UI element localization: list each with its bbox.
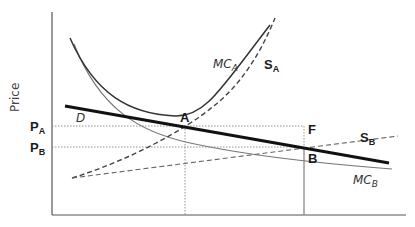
- y-axis-title: Price: [8, 83, 22, 112]
- s-a-label: SA: [264, 58, 279, 74]
- mc-b-label: MCB: [353, 174, 378, 189]
- diagram-canvas: [0, 0, 415, 227]
- point-f-label: F: [308, 123, 316, 136]
- pa-label: PA: [30, 120, 45, 136]
- demand-label: D: [76, 112, 85, 124]
- s-a-curve: [72, 18, 275, 178]
- point-a-label: A: [180, 111, 189, 124]
- mc-a-curve: [70, 25, 270, 116]
- pb-label: PB: [30, 141, 45, 157]
- point-b-label: B: [308, 152, 317, 165]
- s-b-label: SB: [360, 131, 375, 147]
- mc-a-label: MCA: [213, 58, 238, 73]
- demand-curve: [65, 106, 389, 163]
